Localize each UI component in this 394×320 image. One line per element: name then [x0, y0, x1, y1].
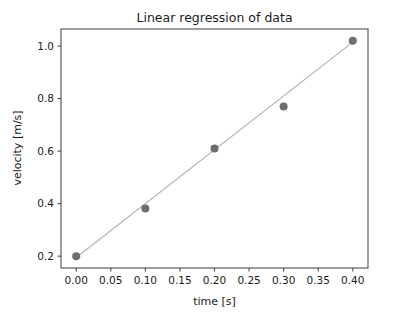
x-tick-label: 0.35 [307, 274, 330, 286]
x-tick-label: 0.05 [99, 274, 122, 286]
data-point-marker [280, 102, 288, 110]
chart-title: Linear regression of data [136, 10, 292, 25]
linear-regression-chart: Linear regression of data 0.000.050.100.… [0, 0, 394, 320]
y-tick-label: 0.8 [37, 92, 54, 104]
x-tick-label: 0.00 [65, 274, 88, 286]
data-point-marker [211, 145, 219, 153]
x-tick-label: 0.30 [272, 274, 295, 286]
x-tick-label: 0.10 [134, 274, 157, 286]
y-tick-label: 0.6 [37, 145, 54, 157]
y-tick-label: 1.0 [37, 40, 54, 52]
chart-background [0, 0, 394, 320]
y-axis-label: velocity [m/s] [11, 110, 24, 185]
data-point-marker [72, 252, 80, 260]
x-tick-label: 0.20 [203, 274, 226, 286]
x-tick-label: 0.25 [237, 274, 260, 286]
data-point-marker [349, 37, 357, 45]
data-point-marker [141, 204, 149, 212]
x-tick-label: 0.40 [341, 274, 364, 286]
y-tick-label: 0.4 [37, 197, 54, 209]
figure-canvas: Linear regression of data 0.000.050.100.… [0, 0, 394, 320]
y-tick-label: 0.2 [37, 250, 54, 262]
x-tick-label: 0.15 [168, 274, 191, 286]
x-axis-label: time [s] [193, 295, 236, 308]
